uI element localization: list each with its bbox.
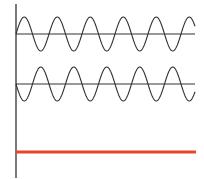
waveform-diagram: [0, 0, 204, 179]
